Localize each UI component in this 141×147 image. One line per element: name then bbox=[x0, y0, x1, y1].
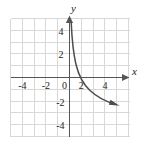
y-axis-label: y bbox=[70, 2, 76, 14]
y-tick-label-4: 4 bbox=[59, 26, 64, 37]
function-curve bbox=[71, 23, 119, 106]
x-tick-label-2: 2 bbox=[79, 80, 84, 91]
x-tick-label-4: 4 bbox=[102, 80, 107, 91]
y-tick-label-neg2: -2 bbox=[56, 97, 64, 108]
coordinate-plane: 4 2 -2 -4 -4 -2 0 2 4 x y bbox=[0, 0, 141, 147]
y-tick-label-2: 2 bbox=[59, 49, 64, 60]
x-tick-label-neg2: -2 bbox=[42, 80, 50, 91]
graph-figure: 4 2 -2 -4 -4 -2 0 2 4 x y bbox=[0, 0, 141, 147]
x-axis-label: x bbox=[131, 65, 137, 77]
y-axis-arrow-icon bbox=[66, 16, 73, 24]
y-tick-label-neg4: -4 bbox=[56, 120, 64, 131]
x-tick-label-neg4: -4 bbox=[18, 80, 26, 91]
origin-label: 0 bbox=[62, 80, 67, 91]
